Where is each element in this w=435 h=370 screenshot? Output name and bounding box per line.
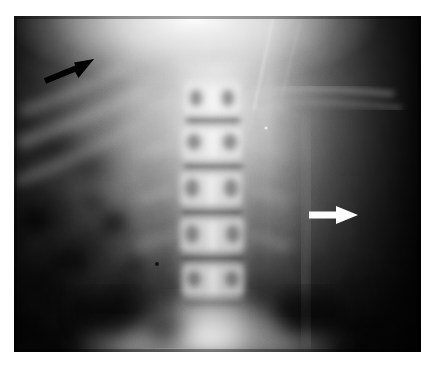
radiograph-film	[14, 16, 421, 352]
radiograph-image	[14, 16, 421, 352]
film-grain	[14, 16, 421, 352]
screenshot-root: black arrow white arrow anteroposterior …	[0, 0, 435, 370]
